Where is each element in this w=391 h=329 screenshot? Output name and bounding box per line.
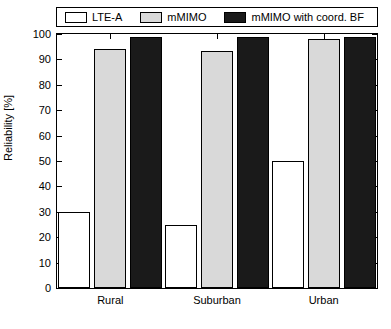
y-tick-label: 20 (39, 231, 51, 243)
y-tick-label: 80 (39, 79, 51, 91)
x-tick-label: Suburban (193, 294, 241, 306)
y-tick-label: 0 (45, 282, 51, 294)
bar-mmimo-with-coord-bf-suburban (237, 37, 269, 288)
y-tick-label: 30 (39, 206, 51, 218)
y-tick-label: 70 (39, 104, 51, 116)
y-tick-mark (372, 34, 377, 35)
y-tick-label: 50 (39, 155, 51, 167)
bar-lte-a-suburban (165, 225, 197, 289)
y-tick-label: 90 (39, 53, 51, 65)
legend-entry-mmimo-coord-bf: mMIMO with coord. BF (224, 8, 363, 26)
chart-legend: LTE-A mMIMO mMIMO with coord. BF (56, 7, 378, 27)
x-tick-label: Urban (309, 294, 339, 306)
bar-mmimo-suburban (201, 51, 233, 288)
legend-swatch-mmimo (140, 12, 162, 23)
x-tick-mark (217, 34, 218, 39)
bar-mmimo-rural (94, 49, 126, 288)
bar-mmimo-urban (308, 39, 340, 288)
legend-label-mmimo: mMIMO (167, 12, 206, 23)
plot-area: 0102030405060708090100RuralSuburbanUrban (56, 33, 378, 289)
y-tick-mark (57, 110, 62, 111)
y-tick-mark (57, 288, 62, 289)
legend-label-lte-a: LTE-A (92, 12, 122, 23)
y-tick-label: 100 (33, 28, 51, 40)
legend-label-mmimo-coord-bf: mMIMO with coord. BF (251, 12, 363, 23)
y-tick-label: 60 (39, 130, 51, 142)
legend-swatch-lte-a (65, 12, 87, 23)
x-tick-mark (110, 34, 111, 39)
y-axis-title: Reliability [%] (2, 95, 14, 161)
y-tick-label: 40 (39, 180, 51, 192)
y-tick-label: 10 (39, 257, 51, 269)
bar-lte-a-rural (58, 212, 90, 288)
bar-chart: LTE-A mMIMO mMIMO with coord. BF 0102030… (0, 0, 391, 329)
bar-mmimo-with-coord-bf-urban (344, 37, 376, 288)
y-tick-mark (57, 161, 62, 162)
bar-mmimo-with-coord-bf-rural (130, 37, 162, 288)
y-tick-mark (57, 34, 62, 35)
legend-entry-mmimo: mMIMO (140, 8, 206, 26)
y-tick-mark (57, 59, 62, 60)
y-tick-mark (57, 136, 62, 137)
bar-lte-a-urban (272, 161, 304, 288)
legend-entry-lte-a: LTE-A (65, 8, 122, 26)
y-tick-mark (57, 186, 62, 187)
y-tick-mark (372, 288, 377, 289)
x-tick-label: Rural (97, 294, 123, 306)
y-tick-mark (57, 85, 62, 86)
plot-inner: 0102030405060708090100RuralSuburbanUrban (57, 34, 377, 288)
legend-swatch-mmimo-coord-bf (224, 12, 246, 23)
